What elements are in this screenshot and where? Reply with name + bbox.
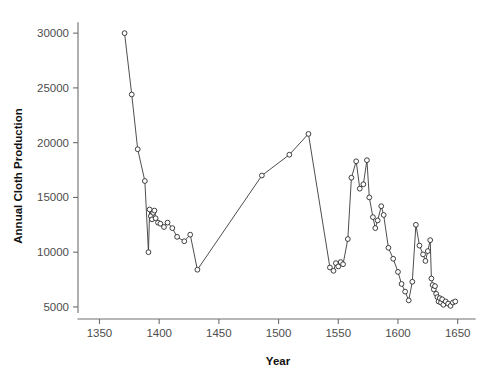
data-point — [379, 204, 384, 209]
data-point — [170, 226, 175, 231]
cloth-production-line-chart: 50001000015000200002500030000 1350140014… — [0, 0, 496, 376]
x-tick-label: 1550 — [325, 327, 351, 339]
y-tick-label: 15000 — [37, 191, 69, 203]
data-point — [175, 234, 180, 239]
x-tick-label: 1600 — [385, 327, 411, 339]
x-tick-label: 1350 — [87, 327, 113, 339]
data-point — [386, 245, 391, 250]
data-point — [129, 92, 134, 97]
data-point — [417, 243, 422, 248]
data-point — [165, 220, 170, 225]
y-axis-title: Annual Cloth Production — [12, 108, 24, 243]
data-point — [433, 284, 438, 289]
data-point — [453, 299, 458, 304]
data-point — [375, 218, 380, 223]
data-point — [373, 226, 378, 231]
data-point — [142, 179, 147, 184]
data-point — [122, 31, 127, 36]
y-tick-label: 10000 — [37, 246, 69, 258]
data-point — [406, 298, 411, 303]
data-point — [361, 182, 366, 187]
chart-background — [0, 0, 496, 376]
data-point — [182, 239, 187, 244]
data-point — [349, 175, 354, 180]
data-point — [391, 256, 396, 261]
data-point — [354, 159, 359, 164]
data-point — [399, 282, 404, 287]
data-point — [425, 249, 430, 254]
y-tick-label: 20000 — [37, 137, 69, 149]
data-point — [403, 289, 408, 294]
data-point — [341, 262, 346, 267]
data-point — [410, 279, 415, 284]
data-point — [188, 232, 193, 237]
data-point — [357, 186, 362, 191]
y-tick-label: 30000 — [37, 27, 69, 39]
data-point — [331, 268, 336, 273]
data-point — [146, 250, 151, 255]
data-point — [429, 276, 434, 281]
data-point — [345, 237, 350, 242]
data-point — [381, 213, 386, 218]
y-tick-label: 5000 — [43, 301, 69, 313]
x-tick-label: 1500 — [266, 327, 292, 339]
data-point — [421, 252, 426, 257]
data-point — [259, 173, 264, 178]
data-point — [396, 270, 401, 275]
data-point — [135, 147, 140, 152]
y-tick-label: 25000 — [37, 82, 69, 94]
data-point — [371, 215, 376, 220]
x-axis-title: Year — [266, 355, 291, 367]
data-point — [195, 267, 200, 272]
chart-container: 50001000015000200002500030000 1350140014… — [0, 0, 496, 376]
data-point — [428, 238, 433, 243]
data-point — [413, 222, 418, 227]
data-point — [365, 158, 370, 163]
data-point — [423, 259, 428, 264]
x-tick-label: 1400 — [146, 327, 172, 339]
data-point — [152, 208, 157, 213]
data-point — [306, 132, 311, 137]
data-point — [367, 195, 372, 200]
data-point — [162, 225, 167, 230]
x-tick-label: 1450 — [206, 327, 232, 339]
x-tick-label: 1650 — [445, 327, 471, 339]
data-point — [287, 152, 292, 157]
